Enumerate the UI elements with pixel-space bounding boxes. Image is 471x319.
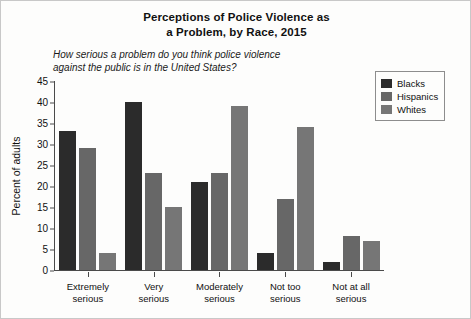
y-axis-tick-label: 20 — [37, 181, 54, 192]
y-axis-tick-label: 5 — [42, 244, 54, 255]
bar-hispanics-extremely-serious — [79, 148, 96, 270]
bar-hispanics-very-serious — [145, 173, 162, 270]
y-axis-title: Percent of adults — [9, 81, 23, 271]
y-axis-tick-label: 0 — [42, 265, 54, 276]
bar-whites-not-too-serious — [297, 127, 314, 270]
chart-subtitle-line-2: against the public is in the United Stat… — [53, 61, 353, 74]
x-axis-label-not-at-all-serious: Not at allserious — [318, 272, 384, 305]
bars-layer — [55, 81, 384, 270]
x-axis-label-extremely-serious: Extremelyserious — [55, 272, 121, 305]
bar-whites-very-serious — [165, 207, 182, 270]
legend-item-hispanics: Hispanics — [381, 90, 438, 102]
bar-hispanics-moderately-serious — [211, 173, 228, 270]
bar-group — [252, 81, 318, 270]
x-axis-label-line: serious — [187, 293, 253, 305]
x-axis-label-line: Not too — [252, 281, 318, 293]
y-axis-tick-label: 10 — [37, 223, 54, 234]
bar-blacks-not-too-serious — [257, 253, 274, 270]
chart-title-line-2: a Problem, by Race, 2015 — [1, 25, 471, 40]
chart-subtitle: How serious a problem do you think polic… — [53, 48, 353, 74]
x-axis-label-line: Extremely — [55, 281, 121, 293]
legend-swatch-icon — [381, 105, 392, 114]
bar-whites-moderately-serious — [231, 106, 248, 270]
x-axis-label-line: serious — [55, 293, 121, 305]
legend-item-whites: Whites — [381, 103, 438, 115]
bar-whites-not-at-all-serious — [363, 241, 380, 270]
x-axis-label-not-too-serious: Not tooserious — [252, 272, 318, 305]
y-axis-tick-label: 45 — [37, 76, 54, 87]
legend-label: Hispanics — [397, 91, 438, 102]
plot-area: 454035302520151050 — [54, 81, 384, 271]
y-axis-tick-label: 15 — [37, 202, 54, 213]
x-axis-label-line: serious — [318, 293, 384, 305]
bar-hispanics-not-at-all-serious — [343, 236, 360, 270]
x-axis-label-very-serious: Veryserious — [121, 272, 187, 305]
x-axis-line — [54, 270, 384, 271]
y-axis-tick-label: 30 — [37, 139, 54, 150]
y-axis-tick-label: 40 — [37, 97, 54, 108]
chart-title: Perceptions of Police Violence as a Prob… — [1, 10, 471, 39]
x-axis-label-line: Moderately — [187, 281, 253, 293]
bar-hispanics-not-too-serious — [277, 199, 294, 270]
bar-group — [55, 81, 121, 270]
chart-figure: Perceptions of Police Violence as a Prob… — [0, 0, 471, 319]
y-axis-tick-label: 35 — [37, 118, 54, 129]
bar-blacks-extremely-serious — [59, 131, 76, 270]
chart-title-line-1: Perceptions of Police Violence as — [1, 10, 471, 25]
legend-item-blacks: Blacks — [381, 77, 438, 89]
bar-blacks-moderately-serious — [191, 182, 208, 270]
x-axis-labels: ExtremelyseriousVeryseriousModeratelyser… — [55, 272, 384, 305]
x-axis-label-line: serious — [121, 293, 187, 305]
legend-swatch-icon — [381, 79, 392, 88]
y-axis-tick-label: 25 — [37, 160, 54, 171]
legend-swatch-icon — [381, 92, 392, 101]
chart-subtitle-line-1: How serious a problem do you think polic… — [53, 48, 353, 61]
bar-whites-extremely-serious — [99, 253, 116, 270]
bar-blacks-not-at-all-serious — [323, 262, 340, 270]
legend-label: Whites — [397, 104, 426, 115]
legend-label: Blacks — [397, 78, 425, 89]
chart-legend: BlacksHispanicsWhites — [375, 71, 445, 121]
x-axis-label-line: Very — [121, 281, 187, 293]
x-axis-label-line: serious — [252, 293, 318, 305]
bar-group — [121, 81, 187, 270]
bar-blacks-very-serious — [125, 102, 142, 270]
bar-group — [187, 81, 253, 270]
y-axis-title-text: Percent of adults — [10, 137, 22, 216]
x-axis-label-line: Not at all — [318, 281, 384, 293]
x-axis-label-moderately-serious: Moderatelyserious — [187, 272, 253, 305]
